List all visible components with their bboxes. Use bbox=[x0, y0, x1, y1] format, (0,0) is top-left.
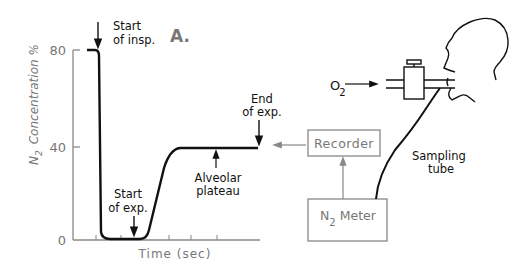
panel-label: A. bbox=[170, 26, 190, 46]
start-insp-label-2: of insp. bbox=[113, 33, 155, 47]
y-tick-80: 80 bbox=[49, 43, 66, 58]
sampling-label-1: Sampling bbox=[412, 149, 466, 163]
recorder-label: Recorder bbox=[314, 136, 374, 151]
x-axis-label: Time (sec) bbox=[138, 247, 212, 261]
alveolar-label-1: Alveolar bbox=[195, 171, 242, 185]
figure-canvas: 80 40 0 N2Concentration % Time (sec) Sta… bbox=[0, 0, 529, 274]
start-exp-label-2: of exp. bbox=[108, 201, 147, 215]
sampling-tube bbox=[376, 88, 440, 199]
y-axis-label: N2Concentration % bbox=[27, 44, 44, 165]
svg-text:N2Concentration %: N2Concentration % bbox=[27, 44, 44, 165]
y-tick-0: 0 bbox=[58, 233, 66, 248]
y-tick-40: 40 bbox=[49, 140, 66, 155]
head-profile bbox=[444, 18, 508, 102]
sampling-label-2: tube bbox=[428, 162, 454, 176]
start-insp-label-1: Start bbox=[113, 19, 142, 33]
o2-label: O2 bbox=[330, 78, 346, 98]
alveolar-label-2: plateau bbox=[196, 184, 239, 198]
end-exp-label-1: End bbox=[251, 92, 273, 106]
start-exp-label-1: Start bbox=[114, 187, 143, 201]
y-axis bbox=[73, 50, 80, 240]
end-exp-label-2: of exp. bbox=[242, 105, 281, 119]
